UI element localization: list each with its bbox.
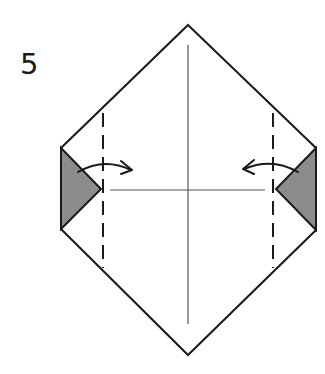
origami-step-canvas: 5 [0, 0, 325, 374]
origami-diagram [0, 0, 325, 374]
right-fold-arrow-icon [243, 160, 298, 174]
left-fold-arrow-icon [78, 161, 132, 174]
left-flap [61, 148, 101, 229]
right-flap [276, 148, 316, 230]
